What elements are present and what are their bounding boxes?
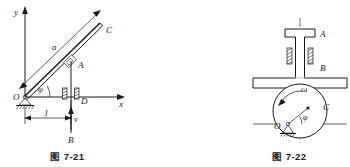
cam-center-label-C: C [323,102,330,112]
figure-page: y x O C a φ [0,0,350,167]
angle-phi-label: φ [38,84,43,94]
guide-label-D: D [80,96,88,106]
guide-label-B: B [320,63,326,73]
angle-phi-arc [48,86,51,97]
rod-end-label-C: C [106,25,113,35]
figure-7-21-drawing: y x O C a φ [0,0,175,145]
follower-A [253,29,347,88]
cam-disc-C [273,84,327,138]
velocity-label-v: v [74,115,78,124]
origin-label: O [13,92,20,102]
distance-label-l: l [45,108,48,118]
angular-velocity-label: ω [301,84,307,94]
caption-figure-7-21: 图 7-21 [50,149,85,163]
y-axis-label: y [13,7,18,17]
rod-B-label: B [68,135,74,145]
dimension-a [19,10,101,89]
angle-phi-label-right: φ [303,113,308,122]
follower-label-A: A [319,29,326,39]
pivot-label-O: O [274,121,281,131]
caption-figure-7-22: 图 7-22 [272,149,307,163]
dimension-l [24,100,72,124]
x-axis-label: x [118,99,123,109]
slider-label-A: A [77,60,84,70]
rod-length-label-a: a [52,42,57,52]
figure-7-22-drawing: A B C [175,0,350,145]
